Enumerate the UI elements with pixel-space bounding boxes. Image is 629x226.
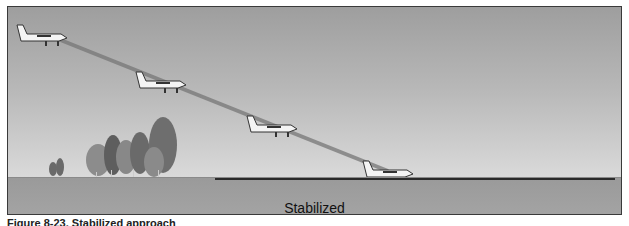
- diagram-frame: Stabilized: [7, 6, 622, 215]
- tree-group: [49, 117, 177, 178]
- runway-line: [215, 178, 615, 180]
- figure-caption: Figure 8-23. Stabilized approach: [7, 216, 176, 226]
- stabilized-label: Stabilized: [8, 200, 621, 215]
- aircraft-icon: [17, 25, 67, 46]
- aircraft-icon: [247, 116, 297, 137]
- aircraft-icon: [136, 72, 186, 93]
